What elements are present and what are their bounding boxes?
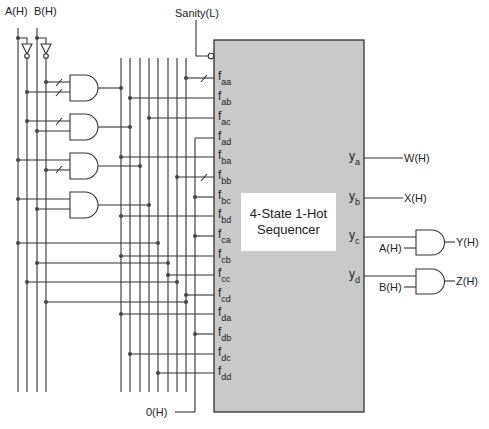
output-y-label: Y(H) bbox=[456, 237, 479, 248]
y-label-b: yb bbox=[349, 190, 360, 208]
sequencer-title: 4-State 1-Hot Sequencer bbox=[241, 193, 336, 251]
f-label-cc: fcc bbox=[218, 267, 230, 285]
f-label-bd: fbd bbox=[218, 208, 231, 226]
title-line-1: 4-State 1-Hot bbox=[250, 206, 327, 222]
f-label-bc: fbc bbox=[218, 189, 231, 207]
output-x-label: X(H) bbox=[404, 193, 427, 204]
f-label-cb: fcb bbox=[218, 248, 231, 266]
input-b-label: B(H) bbox=[34, 6, 57, 17]
input-a-label: A(H) bbox=[5, 6, 28, 17]
f-label-ac: fac bbox=[218, 110, 231, 128]
f-label-cd: fcd bbox=[218, 287, 231, 305]
f-label-aa: faa bbox=[218, 70, 231, 88]
f-label-ba: fba bbox=[218, 149, 231, 167]
f-label-ca: fca bbox=[218, 228, 231, 246]
f-label-ab: fab bbox=[218, 90, 231, 108]
y-label-d: yd bbox=[349, 268, 360, 286]
title-line-2: Sequencer bbox=[257, 222, 320, 238]
f-label-ad: fad bbox=[218, 130, 231, 148]
sanity-label: Sanity(L) bbox=[175, 8, 219, 19]
f-label-db: fdb bbox=[218, 326, 231, 344]
z-gate-input-label: B(H) bbox=[379, 282, 402, 293]
y-label-a: ya bbox=[349, 150, 360, 168]
output-z-label: Z(H) bbox=[456, 276, 478, 287]
y-gate-input-label: A(H) bbox=[379, 243, 402, 254]
f-label-bb: fbb bbox=[218, 169, 231, 187]
f-label-dd: fdd bbox=[218, 365, 231, 383]
f-label-da: fda bbox=[218, 306, 231, 324]
zero-input-label: 0(H) bbox=[146, 407, 167, 418]
f-label-dc: fdc bbox=[218, 346, 231, 364]
output-w-label: W(H) bbox=[404, 153, 430, 164]
y-label-c: yc bbox=[349, 229, 360, 247]
